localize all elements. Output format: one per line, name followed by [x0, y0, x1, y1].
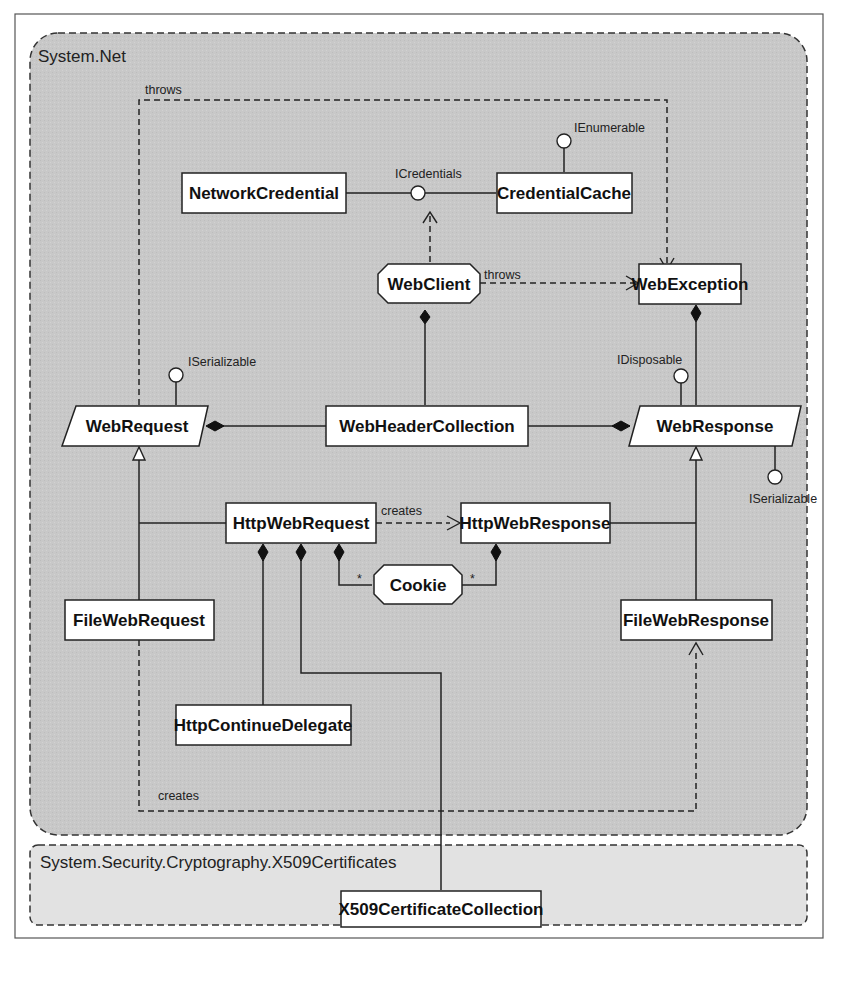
- label-web-request: WebRequest: [86, 417, 189, 436]
- iserializable-response-lollipop-icon: [768, 470, 782, 484]
- label-iserializable-request: ISerializable: [188, 355, 256, 369]
- label-cookie: Cookie: [390, 576, 447, 595]
- label-http-continue-delegate: HttpContinueDelegate: [174, 716, 353, 735]
- label-x509-certificate-collection: X509CertificateCollection: [338, 900, 543, 919]
- package-label-x509: System.Security.Cryptography.X509Certifi…: [40, 853, 397, 872]
- label-idisposable: IDisposable: [617, 353, 682, 367]
- ienumerable-lollipop-icon: [557, 134, 571, 148]
- label-throws-webclient: throws: [484, 268, 521, 282]
- label-ienumerable: IEnumerable: [574, 121, 645, 135]
- label-throws-top: throws: [145, 83, 182, 97]
- label-mult-cookie-req: *: [357, 572, 362, 586]
- label-creates-http: creates: [381, 504, 422, 518]
- icredentials-lollipop-icon: [411, 186, 425, 200]
- iserializable-request-lollipop-icon: [169, 368, 183, 382]
- label-icredentials: ICredentials: [395, 167, 462, 181]
- label-web-response: WebResponse: [657, 417, 774, 436]
- label-web-header-collection: WebHeaderCollection: [339, 417, 514, 436]
- idisposable-lollipop-icon: [674, 369, 688, 383]
- uml-diagram: System.Net System.Security.Cryptography.…: [0, 0, 865, 981]
- label-file-web-response: FileWebResponse: [623, 611, 769, 630]
- label-http-web-request: HttpWebRequest: [233, 514, 370, 533]
- label-web-exception: WebException: [632, 275, 749, 294]
- label-web-client: WebClient: [388, 275, 471, 294]
- package-label-system-net: System.Net: [38, 47, 126, 66]
- label-file-web-request: FileWebRequest: [73, 611, 205, 630]
- label-iserializable-response: ISerializable: [749, 492, 817, 506]
- label-mult-cookie-resp: *: [470, 572, 475, 586]
- label-creates-file: creates: [158, 789, 199, 803]
- label-network-credential: NetworkCredential: [189, 184, 339, 203]
- label-credential-cache: CredentialCache: [497, 184, 631, 203]
- label-http-web-response: HttpWebResponse: [460, 514, 611, 533]
